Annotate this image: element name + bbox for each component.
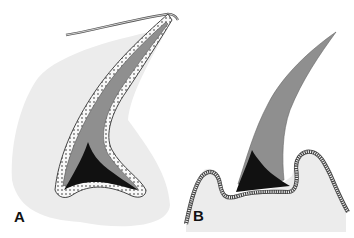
diagram-canvas [0,0,354,238]
panel-b-label: B [193,207,204,224]
diagram-figure: A B [0,0,354,238]
panel-a-label: A [14,208,25,225]
panel-a [12,14,178,226]
panel-b [186,32,348,232]
